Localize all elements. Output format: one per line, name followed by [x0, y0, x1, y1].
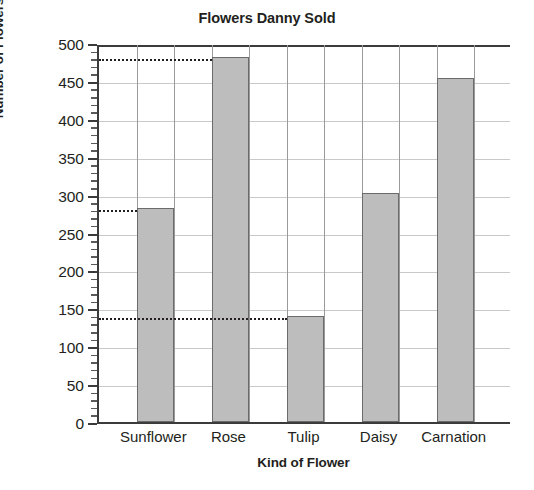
gridline-vertical: [474, 45, 475, 422]
y-tick-label: 200: [38, 264, 84, 280]
gridline-vertical: [324, 45, 325, 422]
y-tick-label: 350: [38, 151, 84, 167]
bar-chart: Flowers Danny Sold Number of Flowers Kin…: [0, 0, 534, 490]
y-tick-major: [88, 44, 97, 46]
reference-line: [99, 210, 137, 212]
y-tick-label: 400: [38, 113, 84, 129]
plot-area: [97, 45, 510, 424]
y-tick-label: 450: [38, 75, 84, 91]
y-tick-major: [88, 309, 97, 311]
bar-rose: [212, 57, 250, 422]
y-tick-major: [88, 120, 97, 122]
y-tick-major: [88, 385, 97, 387]
reference-line: [99, 318, 287, 320]
y-tick-major: [88, 423, 97, 425]
y-tick-label: 150: [38, 302, 84, 318]
y-tick-label: 250: [38, 227, 84, 243]
chart-title: Flowers Danny Sold: [0, 10, 534, 26]
gridline-vertical: [399, 45, 400, 422]
y-tick-major: [88, 271, 97, 273]
y-tick-label: 0: [38, 416, 84, 432]
y-tick-label: 50: [38, 378, 84, 394]
y-tick-label: 300: [38, 189, 84, 205]
bar-daisy: [362, 193, 400, 422]
gridline-horizontal: [99, 45, 510, 47]
gridline-vertical: [174, 45, 175, 422]
y-tick-label: 500: [38, 37, 84, 53]
y-tick-major: [88, 347, 97, 349]
bar-carnation: [437, 78, 475, 422]
x-axis-title: Kind of Flower: [97, 455, 510, 470]
y-tick-major: [88, 196, 97, 198]
y-tick-label: 100: [38, 340, 84, 356]
reference-line: [99, 59, 212, 61]
y-tick-major: [88, 158, 97, 160]
bar-tulip: [287, 316, 325, 422]
y-axis-title: Number of Flowers: [0, 0, 6, 148]
bar-sunflower: [137, 208, 175, 422]
y-tick-major: [88, 234, 97, 236]
gridline-vertical: [249, 45, 250, 422]
x-tick-label-carnation: Carnation: [399, 429, 509, 444]
y-tick-major: [88, 82, 97, 84]
